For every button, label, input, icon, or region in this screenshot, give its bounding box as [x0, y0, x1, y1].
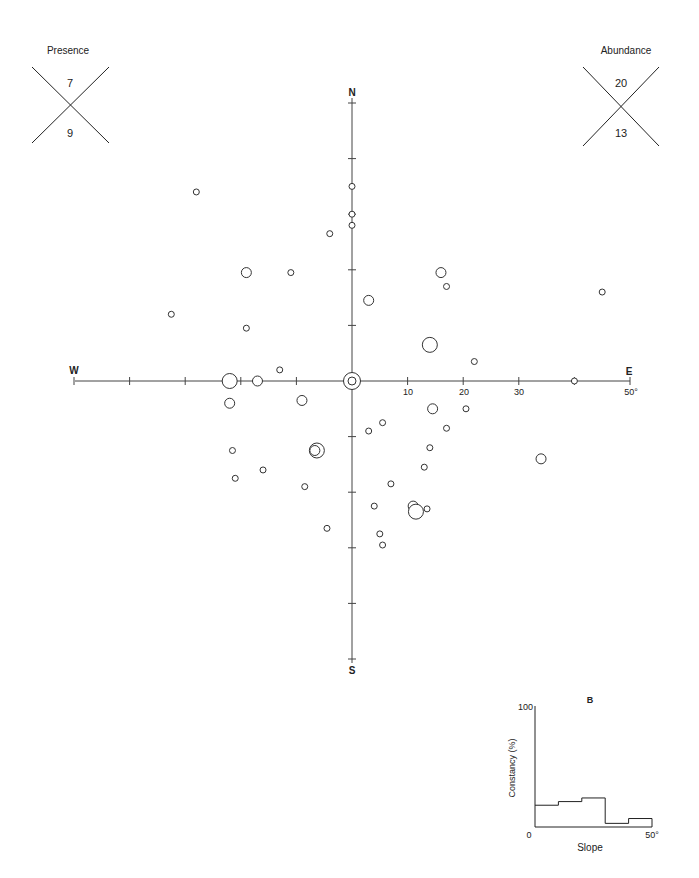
data-point [424, 506, 430, 512]
data-point [324, 525, 330, 531]
constancy-step-line [535, 798, 652, 827]
data-point [427, 445, 433, 451]
data-point [428, 404, 438, 414]
data-point [471, 359, 477, 365]
presence-label: Presence [47, 45, 90, 56]
data-point [380, 542, 386, 548]
data-point [277, 367, 283, 373]
panel-label-b: B [587, 695, 594, 705]
data-point [348, 377, 356, 385]
data-point [571, 378, 577, 384]
data-point [349, 222, 355, 228]
tick-50-label: 50° [624, 387, 638, 397]
data-point [388, 481, 394, 487]
abundance-cross: Abundance 20 13 [583, 45, 659, 146]
data-point [444, 425, 450, 431]
north-label: N [348, 87, 355, 98]
east-label: E [626, 366, 633, 377]
y-min-label: 0 [526, 830, 531, 840]
presence-cross: Presence 7 9 [32, 45, 109, 143]
data-point [408, 504, 423, 519]
presence-top-value: 7 [67, 77, 73, 89]
data-point [243, 325, 249, 331]
data-point [260, 467, 266, 473]
tick-30-label: 30 [514, 387, 524, 397]
data-points [168, 183, 605, 548]
data-point [193, 189, 199, 195]
y-axis-label: Constancy (%) [507, 738, 517, 797]
south-label: S [349, 665, 356, 676]
tick-20-label: 20 [459, 387, 469, 397]
data-point [436, 268, 446, 278]
data-point [222, 374, 237, 389]
data-point [377, 531, 383, 537]
figure-canvas: Presence 7 9 Abundance 20 13 N S E W 10 … [0, 0, 699, 878]
histogram-b: B 100 0 50° Slope Constancy (%) [507, 695, 659, 853]
data-point [168, 311, 174, 317]
data-point [349, 183, 355, 189]
data-point [225, 398, 235, 408]
data-point [444, 283, 450, 289]
data-point [229, 448, 235, 454]
abundance-label: Abundance [601, 45, 652, 56]
data-point [232, 475, 238, 481]
data-point [349, 211, 355, 217]
data-point [297, 395, 307, 405]
tick-10-label: 10 [403, 387, 413, 397]
data-point [241, 268, 251, 278]
data-point [463, 406, 469, 412]
data-point [371, 503, 377, 509]
data-point [252, 376, 262, 386]
data-point [422, 337, 437, 352]
x-max-label: 50° [645, 830, 659, 840]
data-point [380, 420, 386, 426]
abundance-top-value: 20 [615, 77, 627, 89]
x-axis-label: Slope [577, 842, 603, 853]
data-point [327, 231, 333, 237]
data-point [536, 454, 546, 464]
presence-bottom-value: 9 [67, 127, 73, 139]
y-max-label: 100 [518, 702, 533, 712]
data-point [421, 464, 427, 470]
data-point [366, 428, 372, 434]
abundance-bottom-value: 13 [615, 127, 627, 139]
data-point [599, 289, 605, 295]
west-label: W [69, 365, 79, 376]
data-point [302, 484, 308, 490]
data-point [310, 446, 320, 456]
data-point [364, 295, 374, 305]
data-point [288, 270, 294, 276]
